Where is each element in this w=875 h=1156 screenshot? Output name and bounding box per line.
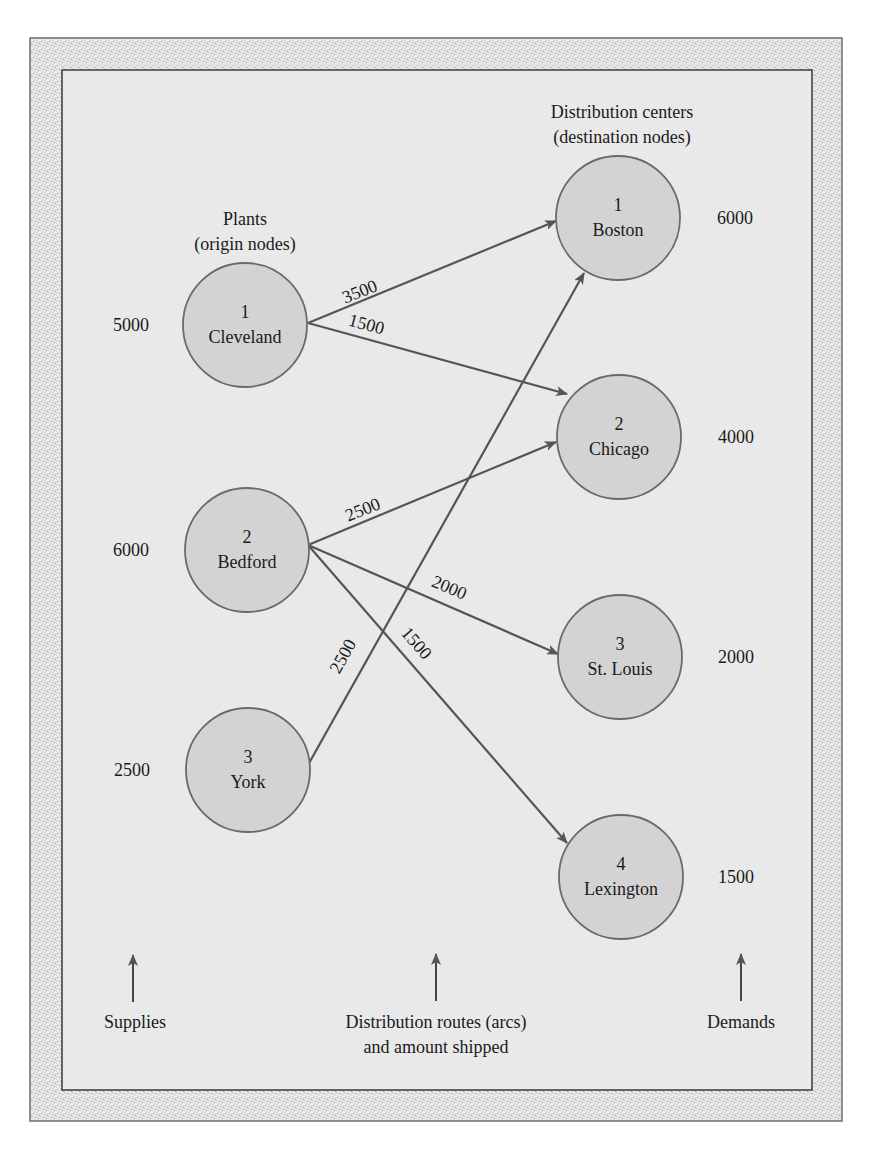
supply-cleveland: 5000	[113, 315, 149, 335]
node-id: 2	[615, 414, 624, 434]
demand-chicago: 4000	[718, 427, 754, 447]
destination-node-stlouis: 3 St. Louis	[558, 595, 682, 719]
node-name: Bedford	[218, 552, 277, 572]
destination-node-chicago: 2 Chicago	[557, 375, 681, 499]
destination-node-boston: 1 Boston	[556, 156, 680, 280]
origin-node-york: 3 York	[186, 708, 310, 832]
node-id: 1	[614, 195, 623, 215]
node-id: 2	[243, 527, 252, 547]
demand-lexington: 1500	[718, 867, 754, 887]
routes-label-line2: and amount shipped	[364, 1037, 509, 1057]
supplies-label: Supplies	[104, 1012, 166, 1032]
dc-header-line2: (destination nodes)	[553, 127, 690, 148]
node-id: 4	[617, 854, 626, 874]
plants-header-line2: (origin nodes)	[194, 234, 295, 255]
supply-bedford: 6000	[113, 540, 149, 560]
demand-stlouis: 2000	[718, 647, 754, 667]
plants-header-line1: Plants	[223, 209, 267, 229]
demands-label: Demands	[707, 1012, 775, 1032]
dc-header-line1: Distribution centers	[551, 102, 693, 122]
node-name: Boston	[592, 220, 643, 240]
destination-node-lexington: 4 Lexington	[559, 815, 683, 939]
node-name: St. Louis	[587, 659, 652, 679]
node-id: 3	[244, 747, 253, 767]
network-diagram: Plants (origin nodes) Distribution cente…	[0, 0, 875, 1156]
node-id: 1	[241, 302, 250, 322]
node-name: Chicago	[589, 439, 649, 459]
node-name: York	[230, 772, 265, 792]
transportation-network-figure: Plants (origin nodes) Distribution cente…	[0, 0, 875, 1156]
node-name: Cleveland	[209, 327, 282, 347]
origin-node-bedford: 2 Bedford	[185, 488, 309, 612]
node-id: 3	[616, 634, 625, 654]
origin-node-cleveland: 1 Cleveland	[183, 263, 307, 387]
node-name: Lexington	[584, 879, 658, 899]
supply-york: 2500	[114, 760, 150, 780]
demand-boston: 6000	[717, 208, 753, 228]
routes-label-line1: Distribution routes (arcs)	[346, 1012, 527, 1033]
